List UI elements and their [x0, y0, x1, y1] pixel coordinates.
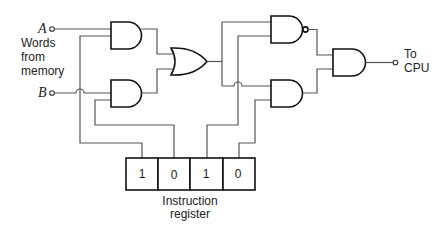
nand-inversion-bubble	[303, 27, 308, 32]
register-bit-4: 0	[235, 167, 242, 181]
register-label-line-2: register	[170, 207, 210, 221]
input-a-terminal	[50, 27, 55, 32]
and-gate-output	[333, 49, 366, 76]
memory-label: memory	[21, 64, 64, 78]
wire-bit3-to-nand	[207, 36, 271, 158]
wire-bit2-to-and-b	[95, 100, 174, 158]
and-gate-b	[111, 80, 142, 107]
instruction-register: 1 0 1 0	[126, 158, 255, 190]
wire-or-to-and-2	[222, 82, 271, 86]
input-b-label: B	[38, 85, 47, 100]
cpu-label: CPU	[404, 61, 429, 75]
and-gate-a	[111, 22, 142, 49]
register-label-line-1: Instruction	[162, 194, 217, 208]
input-a-label: A	[37, 21, 47, 36]
output-terminal	[393, 60, 398, 65]
from-label: from	[21, 50, 45, 64]
wire-nand-to-and-out	[308, 30, 333, 56]
register-bit-3: 1	[203, 167, 210, 181]
wire-and-2-to-and-out	[303, 69, 334, 93]
and-gate-2	[271, 80, 303, 107]
nand-gate	[271, 16, 303, 43]
register-bit-2: 0	[171, 168, 178, 182]
register-bit-1: 1	[139, 167, 146, 181]
wire-and-a-to-or	[142, 29, 174, 54]
or-gate	[171, 48, 207, 75]
wire-bit4-to-and-2	[239, 100, 271, 158]
wire-and-b-to-or	[142, 69, 174, 93]
words-label: Words	[21, 36, 55, 50]
input-b-terminal	[50, 91, 55, 96]
logic-circuit-diagram: A B Words from memory To CPU	[0, 0, 441, 226]
wire-b-to-and-b	[55, 89, 112, 93]
to-label: To	[404, 47, 417, 61]
